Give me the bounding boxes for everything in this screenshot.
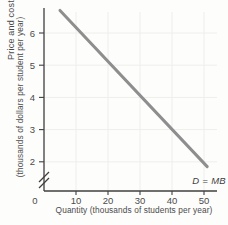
y-axis-title-line2: (thousands of dollars per student per ye…	[15, 5, 25, 189]
axes	[44, 8, 217, 191]
gridlines	[45, 12, 217, 190]
demand-marginal-benefit-chart: Price and cost (thousands of dollars per…	[0, 0, 228, 225]
y-tick-label: 6	[30, 28, 35, 39]
curve-label: D = MB	[192, 175, 226, 186]
y-tick-label: 2	[30, 156, 35, 167]
origin-label: 0	[32, 195, 37, 206]
y-tick-label: 3	[30, 124, 35, 135]
y-tick-label: 5	[30, 60, 35, 71]
x-axis-ticks: 10203040500	[32, 191, 209, 206]
demand-curve-line	[60, 10, 207, 166]
y-tick-label: 4	[30, 92, 35, 103]
y-axis-ticks: 23456	[30, 28, 44, 168]
plot-area: 2345610203040500D = MB	[0, 0, 228, 225]
x-axis-title: Quantity (thousands of students per year…	[44, 205, 224, 215]
